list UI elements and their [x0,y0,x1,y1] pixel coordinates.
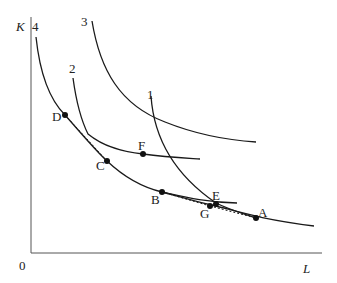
curve-4 [36,37,314,226]
point-d [62,112,68,118]
x-axis-label: L [303,262,310,275]
point-d-label: D [52,110,61,123]
point-b-label: B [151,193,160,206]
dashed-g-a [210,206,256,218]
curve-2-label: 2 [69,62,76,75]
line-b-e [162,192,237,203]
curve-2 [73,78,200,159]
point-f-label: F [138,139,145,152]
point-e-label: E [212,189,220,202]
origin-label: 0 [19,259,26,272]
point-c [104,158,110,164]
diagram-canvas [0,0,337,283]
point-g-label: G [200,207,209,220]
curve-3-label: 3 [81,15,88,28]
curve-4-label: 4 [32,20,39,33]
point-a-label: A [258,206,267,219]
curve-3 [92,21,256,142]
isoquant-diagram: K L 0 4 2 3 1 D C F B E G A [0,0,337,283]
y-axis-label: K [16,20,25,33]
curve-1-label: 1 [147,88,154,101]
point-c-label: C [96,159,105,172]
